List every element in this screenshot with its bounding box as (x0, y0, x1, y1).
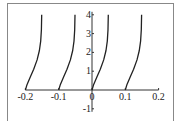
x-tick-label: -0.1 (51, 91, 67, 102)
x-tick-label: 0.2 (152, 91, 165, 102)
x-tick-label: 0 (90, 91, 95, 102)
data-line (92, 15, 108, 90)
data-line (59, 15, 75, 90)
chart-canvas: -0.2-0.100.10.2-11234 (0, 0, 179, 121)
y-tick-label: 3 (86, 28, 91, 39)
y-tick-label: 2 (86, 46, 91, 57)
y-tick-label: -1 (83, 103, 91, 114)
x-tick-label: 0.1 (119, 91, 132, 102)
x-tick-label: -0.2 (17, 91, 33, 102)
y-tick-label: 4 (86, 9, 91, 20)
tick-labels: -0.2-0.100.10.2-11234 (17, 9, 164, 114)
plot-lines (25, 15, 141, 90)
y-tick-label: 1 (86, 65, 91, 76)
data-line (125, 15, 141, 90)
data-line (25, 15, 41, 90)
